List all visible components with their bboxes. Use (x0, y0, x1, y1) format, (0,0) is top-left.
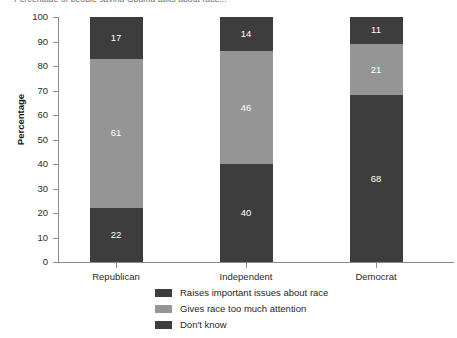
y-tick-label: 50 (37, 135, 48, 145)
x-tick-label: Independent (186, 271, 306, 282)
bar-stack[interactable]: 226117 (90, 17, 143, 262)
bar-segment[interactable] (350, 17, 403, 44)
legend-swatch-icon (155, 321, 172, 329)
y-tick-mark (53, 91, 58, 92)
y-tick-mark (53, 164, 58, 165)
y-tick-label: 80 (37, 61, 48, 71)
legend-label: Don't know (180, 318, 227, 332)
y-tick-mark (53, 262, 58, 263)
x-tick-label: Democrat (316, 271, 436, 282)
bar-segment[interactable] (220, 51, 273, 164)
x-tick-mark (246, 263, 247, 268)
y-axis-line (58, 17, 59, 262)
y-tick-mark (53, 189, 58, 190)
y-tick-mark (53, 213, 58, 214)
bar-segment[interactable] (220, 164, 273, 262)
legend-swatch-icon (155, 289, 172, 297)
legend-swatch-icon (155, 305, 172, 313)
legend-label: Raises important issues about race (180, 286, 328, 300)
bar-segment[interactable] (220, 17, 273, 51)
y-tick-label: 60 (37, 110, 48, 120)
y-tick-label: 100 (32, 12, 48, 22)
bar-segment[interactable] (350, 95, 403, 262)
y-tick-label: 10 (37, 233, 48, 243)
bar-segment[interactable] (90, 17, 143, 59)
y-tick-mark (53, 238, 58, 239)
x-tick-label: Republican (56, 271, 176, 282)
x-axis-line (58, 262, 454, 263)
y-tick-mark (53, 42, 58, 43)
y-tick-mark (53, 115, 58, 116)
chart-title: Percentage of people saying Obama talks … (14, 0, 227, 2)
bar-stack[interactable]: 404614 (220, 17, 273, 262)
bar-segment[interactable] (90, 59, 143, 208)
bar-segment[interactable] (350, 44, 403, 95)
y-tick-label: 0 (43, 257, 48, 267)
y-tick-mark (53, 66, 58, 67)
y-tick-label: 70 (37, 86, 48, 96)
legend-label: Gives race too much attention (180, 302, 306, 316)
y-tick-label: 20 (37, 208, 48, 218)
bar-segment[interactable] (90, 208, 143, 262)
y-tick-label: 40 (37, 159, 48, 169)
x-tick-mark (376, 263, 377, 268)
y-tick-label: 30 (37, 184, 48, 194)
y-axis-title: Percentage (15, 80, 26, 160)
y-tick-label: 90 (37, 37, 48, 47)
x-tick-mark (116, 263, 117, 268)
bar-stack[interactable]: 682111 (350, 17, 403, 262)
y-tick-mark (53, 17, 58, 18)
stacked-bar-chart: Percentage of people saying Obama talks … (0, 0, 457, 338)
y-tick-mark (53, 140, 58, 141)
